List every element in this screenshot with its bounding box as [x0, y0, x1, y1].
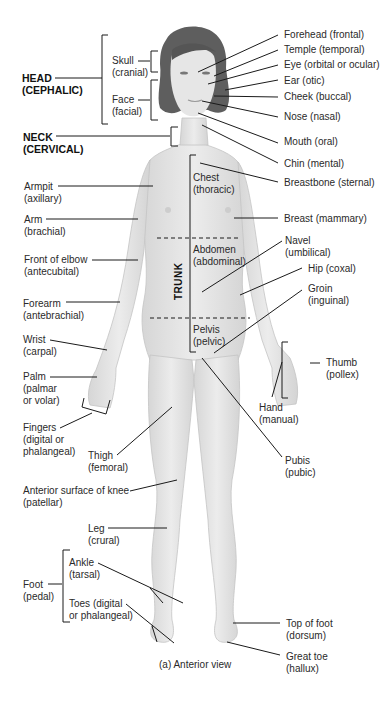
- label-breast: Breast (mammary): [284, 213, 367, 225]
- label-palm: Palm (palmar or volar): [23, 371, 60, 407]
- label-groin: Groin (inguinal): [308, 283, 349, 307]
- label-thigh-name: Thigh: [88, 450, 128, 462]
- label-thigh: Thigh (femoral): [88, 450, 128, 474]
- region-head-term: (CEPHALIC): [22, 84, 83, 96]
- label-leg: Leg (crural): [88, 523, 120, 547]
- label-toes-term: or phalangeal): [69, 610, 133, 622]
- label-eye: Eye (orbital or ocular): [284, 59, 380, 71]
- label-forearm-term: (antebrachial): [23, 310, 84, 322]
- label-wrist: Wrist (carpal): [23, 334, 57, 358]
- label-knee: Anterior surface of knee (patellar): [23, 485, 129, 509]
- label-toes: Toes (digital or phalangeal): [69, 598, 133, 622]
- label-toes-name: Toes (digital: [69, 598, 133, 610]
- figure-caption: (a) Anterior view: [159, 659, 231, 670]
- label-thigh-term: (femoral): [88, 462, 128, 474]
- label-top-of-foot-name: Top of foot: [286, 618, 333, 630]
- body-illustration: [0, 0, 382, 704]
- label-navel-name: Navel: [285, 235, 331, 247]
- region-trunk: TRUNK: [173, 263, 184, 301]
- label-forehead: Forehead (frontal): [284, 29, 364, 41]
- label-navel: Navel (umbilical): [285, 235, 331, 259]
- label-face-name: Face: [112, 94, 142, 106]
- label-chest-name: Chest: [193, 172, 235, 184]
- label-leg-term: (crural): [88, 535, 120, 547]
- label-foot-term: (pedal): [23, 591, 54, 603]
- label-face: Face (facial): [112, 94, 142, 118]
- label-arm-name: Arm: [24, 214, 66, 226]
- label-abdomen-name: Abdomen: [193, 244, 246, 256]
- label-hand-term: (manual): [259, 414, 298, 426]
- region-head: HEAD (CEPHALIC): [22, 72, 83, 96]
- label-nose: Nose (nasal): [284, 111, 341, 123]
- label-arm-term: (brachial): [24, 226, 66, 238]
- label-wrist-name: Wrist: [23, 334, 57, 346]
- label-knee-name: Anterior surface of knee: [23, 485, 129, 497]
- label-pelvis-name: Pelvis: [193, 324, 225, 336]
- label-ankle-term: (tarsal): [69, 569, 100, 581]
- label-wrist-term: (carpal): [23, 346, 57, 358]
- label-fingers-name: Fingers: [23, 422, 75, 434]
- label-palm-term2: or volar): [23, 395, 60, 407]
- label-breastbone: Breastbone (sternal): [284, 177, 375, 189]
- region-neck: NECK (CERVICAL): [23, 131, 83, 155]
- label-thumb: Thumb (pollex): [326, 357, 359, 381]
- label-ear: Ear (otic): [284, 75, 325, 87]
- label-pelvis: Pelvis (pelvic): [193, 324, 225, 348]
- label-abdomen: Abdomen (abdominal): [193, 244, 246, 268]
- label-ankle: Ankle (tarsal): [69, 557, 100, 581]
- label-foot-name: Foot: [23, 579, 54, 591]
- region-neck-name: NECK: [23, 131, 83, 143]
- label-navel-term: (umbilical): [285, 247, 331, 259]
- label-skull-name: Skull: [112, 55, 148, 67]
- label-mouth: Mouth (oral): [284, 136, 338, 148]
- label-pubis-name: Pubis: [285, 455, 316, 467]
- label-great-toe-name: Great toe: [286, 651, 328, 663]
- label-hip: Hip (coxal): [308, 263, 356, 275]
- label-pelvis-term: (pelvic): [193, 336, 225, 348]
- label-ankle-name: Ankle: [69, 557, 100, 569]
- label-thumb-term: (pollex): [326, 369, 359, 381]
- label-hand: Hand (manual): [259, 402, 298, 426]
- region-head-name: HEAD: [22, 72, 83, 84]
- label-great-toe: Great toe (hallux): [286, 651, 328, 675]
- label-groin-name: Groin: [308, 283, 349, 295]
- label-armpit-term: (axillary): [24, 193, 62, 205]
- label-pubis-term: (pubic): [285, 467, 316, 479]
- head-illustration: [159, 27, 230, 117]
- label-great-toe-term: (hallux): [286, 663, 328, 675]
- label-groin-term: (inguinal): [308, 295, 349, 307]
- label-top-of-foot: Top of foot (dorsum): [286, 618, 333, 642]
- label-elbow-term: (antecubital): [24, 266, 87, 278]
- label-fingers-term: (digital or: [23, 434, 75, 446]
- anatomy-figure: HEAD (CEPHALIC) NECK (CERVICAL) TRUNK Sk…: [0, 0, 382, 704]
- label-thumb-name: Thumb: [326, 357, 359, 369]
- label-armpit-name: Armpit: [24, 181, 62, 193]
- label-pubis: Pubis (pubic): [285, 455, 316, 479]
- label-temple: Temple (temporal): [284, 44, 365, 56]
- label-elbow: Front of elbow (antecubital): [24, 254, 87, 278]
- label-elbow-name: Front of elbow: [24, 254, 87, 266]
- label-fingers: Fingers (digital or phalangeal): [23, 422, 75, 458]
- label-knee-term: (patellar): [23, 497, 129, 509]
- label-foot: Foot (pedal): [23, 579, 54, 603]
- label-forearm: Forearm (antebrachial): [23, 298, 84, 322]
- label-skull-term: (cranial): [112, 67, 148, 79]
- label-chest: Chest (thoracic): [193, 172, 235, 196]
- label-abdomen-term: (abdominal): [193, 256, 246, 268]
- label-chin: Chin (mental): [284, 158, 344, 170]
- label-palm-term: (palmar: [23, 383, 60, 395]
- body-silhouette: [88, 118, 297, 642]
- label-top-of-foot-term: (dorsum): [286, 630, 333, 642]
- label-hand-name: Hand: [259, 402, 298, 414]
- label-forearm-name: Forearm: [23, 298, 84, 310]
- label-leg-name: Leg: [88, 523, 120, 535]
- label-cheek: Cheek (buccal): [284, 91, 351, 103]
- label-arm: Arm (brachial): [24, 214, 66, 238]
- region-neck-term: (CERVICAL): [23, 143, 83, 155]
- label-palm-name: Palm: [23, 371, 60, 383]
- label-skull: Skull (cranial): [112, 55, 148, 79]
- label-chest-term: (thoracic): [193, 184, 235, 196]
- label-face-term: (facial): [112, 106, 142, 118]
- label-armpit: Armpit (axillary): [24, 181, 62, 205]
- label-fingers-term2: phalangeal): [23, 446, 75, 458]
